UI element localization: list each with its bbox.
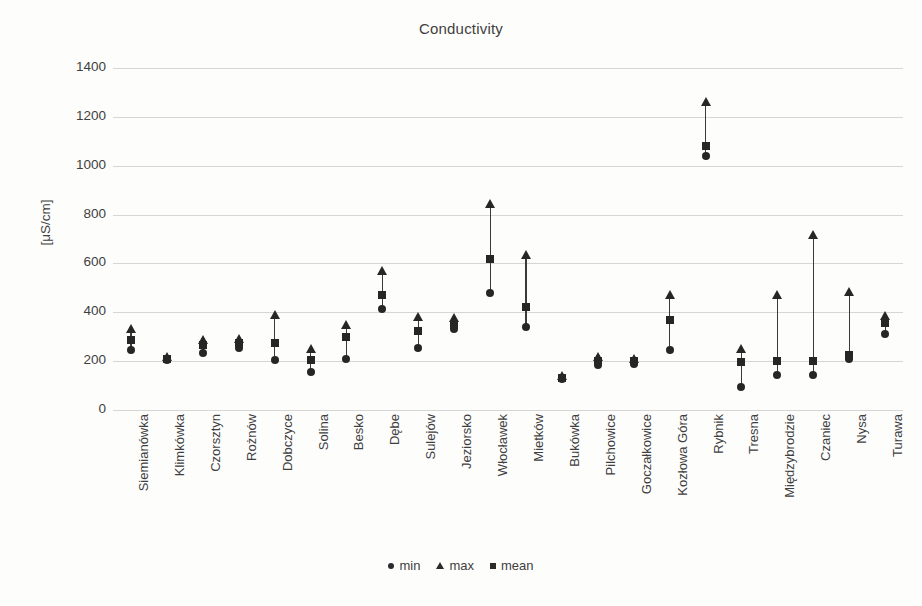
- legend-label: max: [449, 558, 474, 573]
- gridline: [113, 117, 903, 118]
- x-axis-tick-label: Czorsztyn: [208, 414, 223, 554]
- marker-mean[interactable]: [127, 336, 135, 344]
- marker-max[interactable]: [736, 344, 746, 353]
- gridline: [113, 361, 903, 362]
- chart-legend: minmaxmean: [0, 558, 922, 573]
- marker-mean[interactable]: [594, 357, 602, 365]
- marker-min[interactable]: [414, 344, 422, 352]
- marker-mean[interactable]: [630, 357, 638, 365]
- marker-mean[interactable]: [271, 339, 279, 347]
- marker-max[interactable]: [485, 199, 495, 208]
- range-line: [849, 292, 850, 359]
- circle-marker-icon: [388, 563, 394, 569]
- marker-min[interactable]: [773, 371, 781, 379]
- y-axis-tick-label: 400: [46, 303, 106, 318]
- x-axis-tick-label: Besko: [351, 414, 366, 554]
- x-axis-tick-label: Włocławek: [495, 414, 510, 554]
- triangle-marker-icon: [436, 562, 444, 569]
- marker-mean[interactable]: [378, 291, 386, 299]
- x-axis-tick-label: Dębe: [387, 414, 402, 554]
- range-line: [525, 255, 526, 327]
- marker-mean[interactable]: [414, 327, 422, 335]
- y-axis-tick-label: 600: [46, 254, 106, 269]
- y-axis-tick-label: 1200: [46, 108, 106, 123]
- marker-min[interactable]: [378, 305, 386, 313]
- marker-max[interactable]: [521, 250, 531, 259]
- legend-entry[interactable]: mean: [490, 558, 534, 573]
- marker-max[interactable]: [126, 324, 136, 333]
- marker-mean[interactable]: [558, 374, 566, 382]
- gridline: [113, 215, 903, 216]
- x-axis-tick-label: Międzybrodzie: [782, 414, 797, 554]
- marker-min[interactable]: [127, 346, 135, 354]
- marker-min[interactable]: [666, 346, 674, 354]
- legend-label: min: [399, 558, 420, 573]
- marker-mean[interactable]: [737, 358, 745, 366]
- marker-max[interactable]: [341, 320, 351, 329]
- y-axis-tick-label: 200: [46, 352, 106, 367]
- x-axis-tick-label: Nysa: [854, 414, 869, 554]
- square-marker-icon: [490, 563, 496, 569]
- x-axis-tick-label: Tresna: [746, 414, 761, 554]
- marker-min[interactable]: [881, 330, 889, 338]
- gridline: [113, 68, 903, 69]
- marker-min[interactable]: [486, 289, 494, 297]
- x-axis-tick-label: Czaniec: [818, 414, 833, 554]
- marker-mean[interactable]: [522, 303, 530, 311]
- range-line: [813, 235, 814, 374]
- marker-mean[interactable]: [666, 316, 674, 324]
- marker-min[interactable]: [199, 349, 207, 357]
- marker-max[interactable]: [772, 290, 782, 299]
- range-line: [741, 349, 742, 387]
- marker-mean[interactable]: [845, 351, 853, 359]
- x-axis-tick-label: Dobczyce: [280, 414, 295, 554]
- marker-mean[interactable]: [486, 255, 494, 263]
- gridline: [113, 263, 903, 264]
- marker-max[interactable]: [665, 290, 675, 299]
- gridline: [113, 410, 903, 411]
- legend-entry[interactable]: min: [388, 558, 420, 573]
- marker-mean[interactable]: [342, 333, 350, 341]
- marker-min[interactable]: [271, 356, 279, 364]
- marker-max[interactable]: [701, 97, 711, 106]
- range-line: [490, 204, 491, 293]
- marker-min[interactable]: [522, 323, 530, 331]
- marker-mean[interactable]: [235, 339, 243, 347]
- x-axis-tick-label: Jeziorsko: [459, 414, 474, 554]
- marker-mean[interactable]: [773, 357, 781, 365]
- marker-min[interactable]: [702, 152, 710, 160]
- x-axis-tick-label: Bukówka: [567, 414, 582, 554]
- x-axis-tick-label: Goczałkowice: [639, 414, 654, 554]
- legend-entry[interactable]: max: [436, 558, 474, 573]
- marker-mean[interactable]: [702, 142, 710, 150]
- marker-min[interactable]: [809, 371, 817, 379]
- legend-label: mean: [501, 558, 534, 573]
- marker-max[interactable]: [413, 312, 423, 321]
- y-axis-tick-labels: 1400120010008006004002000: [38, 68, 106, 410]
- y-axis-tick-label: 1000: [46, 157, 106, 172]
- marker-max[interactable]: [808, 230, 818, 239]
- marker-mean[interactable]: [450, 321, 458, 329]
- x-axis-tick-label: Sulejów: [423, 414, 438, 554]
- marker-min[interactable]: [307, 368, 315, 376]
- plot-area: [113, 68, 903, 410]
- x-axis-tick-label: Rybnik: [711, 414, 726, 554]
- gridline: [113, 166, 903, 167]
- marker-mean[interactable]: [163, 355, 171, 363]
- marker-mean[interactable]: [199, 341, 207, 349]
- conductivity-chart: Conductivity [μS/cm] 1400120010008006004…: [0, 0, 922, 606]
- marker-mean[interactable]: [881, 319, 889, 327]
- marker-max[interactable]: [377, 266, 387, 275]
- marker-max[interactable]: [844, 287, 854, 296]
- marker-max[interactable]: [270, 310, 280, 319]
- marker-min[interactable]: [737, 383, 745, 391]
- marker-max[interactable]: [306, 344, 316, 353]
- y-axis-tick-label: 0: [46, 401, 106, 416]
- x-axis-tick-label: Solina: [316, 414, 331, 554]
- gridline: [113, 312, 903, 313]
- x-axis-tick-label: Rożnów: [244, 414, 259, 554]
- x-axis-tick-label: Mietków: [531, 414, 546, 554]
- marker-mean[interactable]: [307, 356, 315, 364]
- marker-mean[interactable]: [809, 357, 817, 365]
- range-line: [346, 325, 347, 359]
